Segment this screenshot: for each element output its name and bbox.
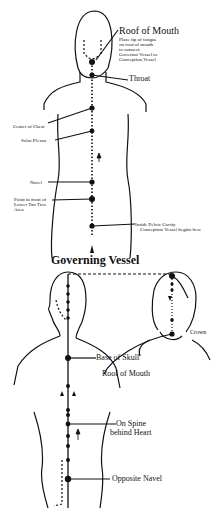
label-base-of-skull: Base of Skull (96, 354, 139, 362)
label-opposite-navel: Opposite Navel (112, 475, 162, 483)
label-lower-tan-tien: Area (14, 207, 24, 212)
label-roof-of-mouth: Roof of Mouth (119, 26, 179, 36)
label-spine-heart: On Spine (116, 420, 146, 428)
label-throat: Throat (129, 75, 150, 83)
label-crown: Crown (190, 329, 206, 335)
label-spine-heart: behind Heart (110, 429, 152, 437)
label-roof-note: Conception Vessel (119, 57, 156, 62)
label-pelvic-cavity: Conception Vessel begins here (140, 227, 201, 232)
label-solar-plexus: Solar Plexus (21, 138, 46, 143)
governing-vessel-title: Governing Vessel (51, 253, 139, 268)
label-navel: Navel (30, 180, 42, 185)
label-center-of-chest: Center of Chest (13, 124, 44, 129)
label-gv-roof-of-mouth: Roof of Mouth (102, 370, 150, 378)
